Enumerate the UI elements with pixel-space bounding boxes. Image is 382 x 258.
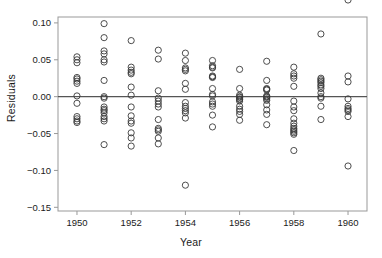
x-axis-title: Year bbox=[0, 236, 382, 248]
data-point-group bbox=[74, 0, 351, 188]
svg-text:−0.05: −0.05 bbox=[27, 128, 51, 139]
svg-text:−0.10: −0.10 bbox=[27, 165, 51, 176]
svg-text:1958: 1958 bbox=[283, 217, 304, 228]
x-axis-tick-labels: 195019521954195619581960 bbox=[66, 217, 358, 228]
svg-text:0.00: 0.00 bbox=[33, 91, 52, 102]
svg-text:1954: 1954 bbox=[175, 217, 196, 228]
svg-text:1952: 1952 bbox=[121, 217, 142, 228]
residual-scatter-plot: −0.15−0.10−0.050.000.050.10 195019521954… bbox=[0, 0, 382, 258]
svg-text:1956: 1956 bbox=[229, 217, 250, 228]
svg-text:0.05: 0.05 bbox=[33, 54, 52, 65]
svg-text:−0.15: −0.15 bbox=[27, 202, 51, 213]
y-axis-title: Residuals bbox=[5, 68, 17, 128]
svg-text:0.10: 0.10 bbox=[33, 17, 52, 28]
y-axis-tick-labels: −0.15−0.10−0.050.000.050.10 bbox=[27, 17, 51, 212]
axis-tick-marks bbox=[54, 23, 348, 215]
plot-canvas: −0.15−0.10−0.050.000.050.10 195019521954… bbox=[0, 0, 382, 258]
svg-text:1960: 1960 bbox=[337, 217, 358, 228]
svg-text:1950: 1950 bbox=[66, 217, 87, 228]
